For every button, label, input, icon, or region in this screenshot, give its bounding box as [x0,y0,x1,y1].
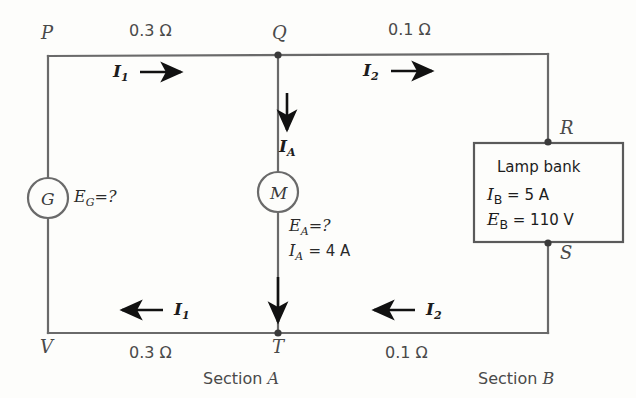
resistance-label-bottom-left: 0.3 Ω [129,345,172,361]
motor-emf-value: =? [309,216,331,235]
motor-emf-sym: E [289,216,301,235]
resistance-label-bottom-right: 0.1 Ω [385,345,428,361]
junction-dot-q [274,51,281,58]
generator-emf-label: EG=? [74,189,116,208]
circuit-diagram-canvas: P Q R S T V 0.3 Ω 0.1 Ω 0.3 Ω 0.1 Ω I1 I… [0,0,636,398]
lamp-bank-emf-row: EB = 110 V [487,211,574,232]
current-label-ia-top-sub: A [287,146,296,159]
node-label-t: T [272,338,284,356]
lamp-bank-current-sym: I [487,184,494,204]
current-label-ia-top-sym: I [279,136,287,156]
lamp-bank-current-row: IB = 5 A [487,186,549,207]
section-label-a-text: Section A [203,369,279,388]
lamp-bank-emf-sub: B [499,217,508,232]
node-label-s: S [560,244,572,262]
resistance-label-top-left: 0.3 Ω [129,23,172,39]
section-label-b-text: Section B [478,369,554,388]
current-label-i2-bottom-sub: 2 [434,309,442,322]
node-label-p: P [41,24,53,42]
current-label-i2-bottom-sym: I [426,299,434,319]
generator-emf-sym: E [74,187,86,206]
node-label-v: V [40,338,53,356]
node-label-r: R [560,119,574,137]
lamp-bank-current-sub: B [494,192,503,207]
section-label-a: Section A [203,371,279,387]
generator-emf-value: =? [94,187,116,206]
current-label-i1-bottom-sym: I [174,299,182,319]
junction-dot-s [544,239,551,246]
motor-symbol-letter: M [270,183,287,203]
junction-dot-r [544,138,551,145]
motor-current-label: IA = 4 A [289,243,350,262]
current-label-i1-top-sym: I [113,61,121,81]
lamp-bank-current-value: = 5 A [507,186,549,204]
section-label-b: Section B [478,371,554,387]
motor-emf-sub: A [301,225,309,238]
current-label-i1-top-sub: 1 [121,71,129,84]
lamp-bank-emf-value: = 110 V [513,211,574,229]
motor-emf-label: EA=? [289,218,331,237]
current-label-i2-bottom: I2 [426,301,442,321]
motor-current-sub: A [295,250,303,263]
current-label-i1-bottom: I1 [174,301,190,321]
node-label-q: Q [272,24,287,42]
current-label-ia-top: IA [279,138,296,158]
top-rail-wire [48,54,548,56]
current-label-i1-top: I1 [113,63,129,83]
resistance-label-top-right: 0.1 Ω [388,22,431,38]
current-label-i2-top: I2 [363,62,379,82]
generator-symbol-letter: G [41,189,55,209]
current-label-i2-top-sub: 2 [371,70,379,83]
lamp-bank-emf-sym: E [487,209,499,229]
lamp-bank-title: Lamp bank [497,160,580,175]
motor-current-value: = 4 A [308,242,350,260]
current-label-i1-bottom-sub: 1 [182,309,190,322]
current-label-i2-top-sym: I [363,60,371,80]
